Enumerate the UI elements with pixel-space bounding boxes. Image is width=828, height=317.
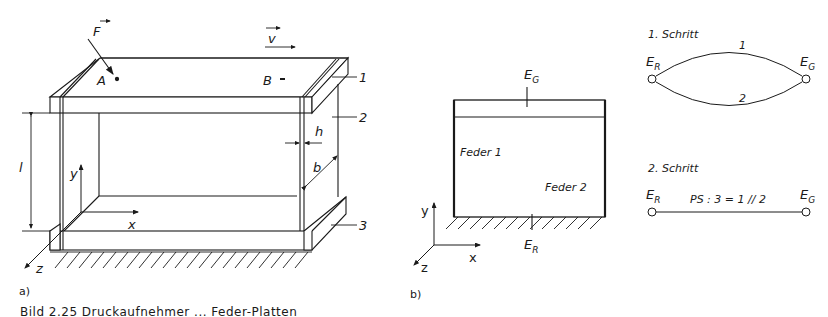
dimension-width [306,156,337,186]
step1-er-label: ER [646,54,660,72]
axis-x-label-a: x [127,217,136,232]
step2-eg-label: EG [800,187,815,205]
figure-canvas: F v A B 1 2 3 h b l y x z a) EG ER Feder… [0,0,828,317]
panel-a-isometric-sensor [22,21,357,268]
panel-a-tag: a) [19,285,30,298]
point-b-label: B [263,73,272,88]
step2-er-label: ER [646,187,660,205]
axis-z-label-b: z [421,260,428,275]
part-label-2: 2 [359,110,367,125]
eg-label-b: EG [524,67,539,85]
graph-step-1 [648,53,810,106]
figure-caption: Bild 2.25 Druckaufnehmer ... Feder-Platt… [20,305,297,317]
dimension-length [22,113,50,231]
step-1-title: 1. Schritt [648,28,699,41]
edge-combined-label: PS : 3 = 1 // 2 [690,193,766,206]
edge-lower-label: 2 [739,92,746,105]
spring-1-label: Feder 1 [460,146,502,159]
ground-hatch-b [446,217,602,229]
dim-thickness-label: h [315,124,323,139]
node-eg-step1 [802,75,810,83]
part-label-3: 3 [359,218,367,233]
axis-x-label-b: x [469,250,477,265]
graph-step-2 [648,208,810,216]
spring-2-label: Feder 2 [545,181,587,194]
er-label-b: ER [524,237,538,255]
bottom-plate [50,197,346,250]
axis-y-label-a: y [69,166,78,181]
point-a-dot [115,77,118,80]
panel-b-cross-section [414,87,605,265]
axis-y-label-b: y [421,203,429,218]
part-label-1: 1 [359,70,367,85]
node-er-step2 [648,208,656,216]
step1-eg-label: EG [800,54,815,72]
point-a-label: A [96,73,106,88]
ground-hatch-a [50,252,312,268]
top-plate [50,58,348,113]
axis-z-label-a: z [35,261,44,276]
node-er-step1 [648,75,656,83]
step-2-title: 2. Schritt [648,162,699,175]
velocity-label: v [268,31,276,46]
edge-upper-label: 1 [739,39,746,52]
panel-b-tag: b) [410,288,421,301]
force-label: F [93,24,101,39]
dim-length-label: l [19,160,23,175]
edge-lower [656,82,802,106]
dim-width-label: b [313,160,321,175]
node-eg-step2 [802,208,810,216]
edge-upper [656,53,802,77]
axes-a [25,165,138,268]
